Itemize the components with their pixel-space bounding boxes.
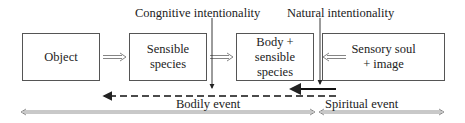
cognitive-intentionality-label: Congnitive intentionality xyxy=(135,6,260,20)
double-arrow-species-to-body xyxy=(210,53,233,61)
box-sensible-species-text: Sensible species xyxy=(130,42,206,72)
natural-intentionality-label: Natural intentionality xyxy=(287,6,394,20)
box-sensory-line1: Sensory soul xyxy=(351,42,415,57)
box-body-line2: species xyxy=(257,65,293,80)
bodily-event-label: Bodily event xyxy=(176,97,240,111)
box-object: Object xyxy=(22,33,100,81)
box-sensible-species: Sensible species xyxy=(129,33,207,81)
bodily-event-span xyxy=(21,109,315,115)
box-body-line1: Body + sensible xyxy=(237,35,313,65)
box-object-text: Object xyxy=(44,50,77,65)
box-sensory-soul-image: Sensory soul + image xyxy=(322,33,445,81)
intentionality-diagram: Congnitive intentionality Natural intent… xyxy=(0,0,465,123)
spiritual-event-label: Spiritual event xyxy=(325,97,398,111)
double-arrow-object-to-species xyxy=(103,53,126,61)
box-body-sensible-species: Body + sensible species xyxy=(236,33,314,81)
box-sensory-line2: + image xyxy=(363,57,404,72)
